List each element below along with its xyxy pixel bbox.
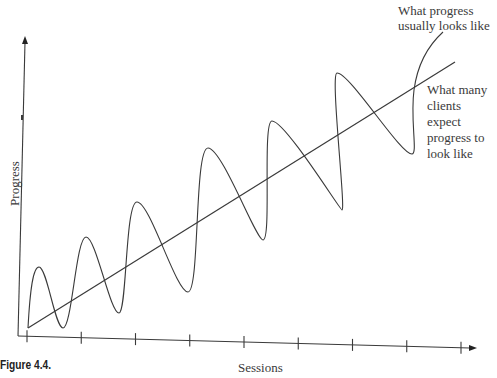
annotation-line: progress to bbox=[427, 130, 497, 146]
x-axis-ticks bbox=[27, 330, 461, 354]
annotation-line: What many bbox=[427, 82, 497, 98]
diagram-canvas bbox=[0, 0, 497, 378]
annotation-line: What progress bbox=[398, 3, 490, 18]
annotation-line: look like bbox=[427, 146, 497, 162]
y-axis-label: Progress bbox=[7, 161, 22, 206]
annotation-line: clients expect bbox=[427, 98, 497, 130]
x-axis-arrow-icon bbox=[469, 345, 477, 351]
x-axis-label: Sessions bbox=[238, 360, 283, 375]
annotation-line: usually looks like bbox=[398, 18, 490, 33]
y-axis-arrow-icon bbox=[22, 36, 28, 44]
figure-caption: Figure 4.4. bbox=[0, 358, 51, 372]
actual-progress-annotation: What progress usually looks like bbox=[398, 3, 490, 33]
expected-progress-line bbox=[28, 62, 455, 328]
expected-progress-annotation: What many clients expect progress to loo… bbox=[427, 82, 497, 162]
actual-progress-curve bbox=[28, 32, 443, 328]
